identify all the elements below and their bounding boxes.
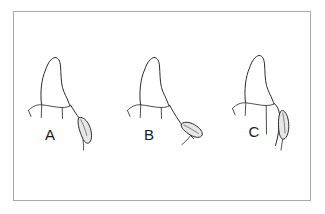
- figure-drawing-canvas: A B C: [0, 0, 325, 214]
- panel-c-blade-tip-tail: [281, 140, 283, 151]
- panel-b-papilla-tick-mesial: [140, 105, 141, 118]
- panel-b-gingival-margin: [128, 105, 170, 111]
- panel-c-tooth-crown: [245, 56, 274, 105]
- panel-b-instrument-blade: [181, 122, 202, 137]
- figure-root: A B C: [0, 0, 325, 214]
- panel-c-instrument-blade: [278, 110, 288, 139]
- panel-b-tooth-crown: [140, 58, 169, 107]
- panel-c-gingival-margin: [233, 103, 275, 109]
- panel-a-tissue-tail-left: [29, 111, 32, 117]
- panel-c-label: C: [249, 123, 260, 140]
- panel-a-tooth-crown: [41, 58, 70, 107]
- panel-b-label: B: [144, 126, 154, 143]
- panel-b-blade-tip-tail: [182, 137, 190, 145]
- panel-a-label: A: [45, 126, 55, 143]
- panel-c-papilla-tick-mesial: [245, 103, 246, 116]
- panel-c-tissue-tail-left: [233, 109, 236, 115]
- panel-a-papilla-tick-mesial: [41, 105, 42, 118]
- panel-a-blade-tip-tail: [83, 140, 84, 150]
- panel-b-tissue-tail-left: [128, 111, 131, 117]
- panel-a-instrument-blade: [78, 118, 91, 144]
- panel-a-group: A: [29, 58, 92, 151]
- panel-c-group: C: [233, 56, 289, 151]
- panel-a-gingival-margin: [29, 105, 71, 111]
- panel-b-group: B: [128, 58, 203, 145]
